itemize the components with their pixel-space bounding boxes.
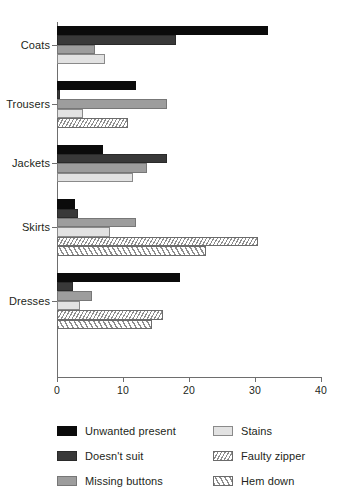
bar-coats-unwanted-present xyxy=(57,26,268,35)
bar-jackets-missing-buttons xyxy=(57,163,147,172)
bar-dresses-hem-down xyxy=(57,320,152,329)
category-label-jackets: Jackets xyxy=(12,157,50,169)
legend-item-faulty-zipper[interactable]: Faulty zipper xyxy=(213,445,305,466)
bar-skirts-unwanted-present xyxy=(57,199,75,208)
bar-coats-stains xyxy=(57,54,105,63)
chart-legend: Unwanted presentDoesn't suitMissing butt… xyxy=(0,412,339,504)
bar-skirts-stains xyxy=(57,227,110,236)
legend-label: Hem down xyxy=(241,475,294,487)
category-label-dresses: Dresses xyxy=(9,295,50,307)
bar-jackets-doesn-t-suit xyxy=(57,154,167,163)
legend-item-unwanted-present[interactable]: Unwanted present xyxy=(57,420,176,441)
category-label-skirts: Skirts xyxy=(22,221,50,233)
bar-dresses-unwanted-present xyxy=(57,273,180,282)
x-tick-mark xyxy=(321,377,322,382)
bar-coats-doesn-t-suit xyxy=(57,35,176,44)
bar-dresses-missing-buttons xyxy=(57,291,92,300)
bar-trousers-doesn-t-suit xyxy=(57,90,60,99)
bar-trousers-faulty-zipper xyxy=(57,118,128,127)
x-tick-label: 20 xyxy=(183,384,195,396)
x-tick-mark xyxy=(123,377,124,382)
legend-swatch-icon xyxy=(57,426,77,436)
bar-skirts-missing-buttons xyxy=(57,218,136,227)
legend-swatch-icon xyxy=(213,426,233,436)
bar-trousers-missing-buttons xyxy=(57,99,167,108)
legend-item-stains[interactable]: Stains xyxy=(213,420,305,441)
bar-dresses-stains xyxy=(57,301,80,310)
legend-label: Stains xyxy=(241,425,272,437)
bar-chart: 010203040 CoatsTrousersJacketsSkirtsDres… xyxy=(0,0,339,504)
bar-coats-missing-buttons xyxy=(57,45,95,54)
x-tick-label: 0 xyxy=(54,384,60,396)
x-tick-mark xyxy=(57,377,58,382)
legend-label: Doesn't suit xyxy=(85,450,143,462)
legend-label: Unwanted present xyxy=(85,425,176,437)
legend-item-hem-down[interactable]: Hem down xyxy=(213,470,305,491)
legend-swatch-icon xyxy=(213,451,233,461)
x-tick-label: 10 xyxy=(117,384,129,396)
category-label-trousers: Trousers xyxy=(6,98,50,110)
bar-skirts-hem-down xyxy=(57,246,206,255)
bar-dresses-faulty-zipper xyxy=(57,310,163,319)
plot-area: 010203040 CoatsTrousersJacketsSkirtsDres… xyxy=(0,0,339,400)
legend-item-doesn-t-suit[interactable]: Doesn't suit xyxy=(57,445,176,466)
legend-column-left: Unwanted presentDoesn't suitMissing butt… xyxy=(57,420,176,495)
legend-swatch-icon xyxy=(213,476,233,486)
x-tick-mark xyxy=(189,377,190,382)
bar-jackets-unwanted-present xyxy=(57,145,103,154)
category-label-coats: Coats xyxy=(21,39,50,51)
legend-label: Faulty zipper xyxy=(241,450,305,462)
legend-item-missing-buttons[interactable]: Missing buttons xyxy=(57,470,176,491)
x-tick-mark xyxy=(255,377,256,382)
bar-dresses-doesn-t-suit xyxy=(57,282,73,291)
legend-column-right: StainsFaulty zipperHem down xyxy=(213,420,305,495)
x-tick-label: 30 xyxy=(249,384,261,396)
legend-swatch-icon xyxy=(57,476,77,486)
bar-trousers-unwanted-present xyxy=(57,81,136,90)
legend-swatch-icon xyxy=(57,451,77,461)
bar-jackets-stains xyxy=(57,173,133,182)
x-tick-label: 40 xyxy=(315,384,327,396)
bar-skirts-doesn-t-suit xyxy=(57,209,78,218)
legend-label: Missing buttons xyxy=(85,475,163,487)
bar-skirts-faulty-zipper xyxy=(57,237,258,246)
bar-trousers-stains xyxy=(57,109,83,118)
